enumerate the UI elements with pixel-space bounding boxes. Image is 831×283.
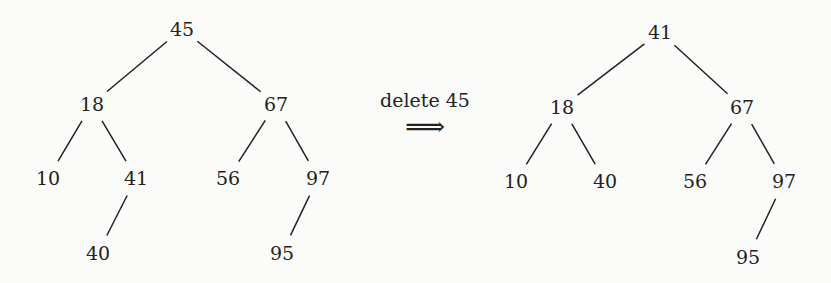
tree-node-56: 56: [683, 172, 707, 191]
edge-67-56: [706, 124, 732, 165]
operation-label: delete 45: [380, 89, 470, 111]
edge-18-10: [58, 121, 82, 161]
edge-67-97: [286, 121, 309, 161]
edge-97-95: [290, 196, 309, 236]
tree-node-56: 56: [216, 169, 240, 188]
edge-45-67: [197, 41, 260, 92]
tree-node-18: 18: [550, 98, 574, 117]
tree-node-41: 41: [648, 23, 672, 42]
tree-node-95: 95: [736, 248, 760, 267]
after-tree-edges: [526, 44, 775, 239]
tree-node-67: 67: [264, 95, 288, 114]
tree-node-40: 40: [593, 172, 617, 191]
tree-node-10: 10: [36, 169, 60, 188]
tree-node-97: 97: [306, 169, 330, 188]
tree-node-18: 18: [80, 95, 104, 114]
tree-node-97: 97: [772, 172, 796, 191]
edge-18-10: [526, 124, 551, 165]
tree-node-10: 10: [504, 172, 528, 191]
edge-18-41: [102, 121, 126, 161]
edge-67-97: [752, 124, 775, 164]
edge-41-40: [107, 195, 127, 235]
tree-node-67: 67: [730, 98, 754, 117]
tree-node-45: 45: [170, 20, 194, 39]
edge-18-40: [572, 124, 595, 164]
edge-41-67: [674, 45, 727, 94]
tree-node-41: 41: [124, 169, 148, 188]
edge-41-18: [578, 44, 645, 95]
tree-node-95: 95: [270, 244, 294, 263]
edge-67-56: [239, 120, 266, 161]
before-tree-edges: [58, 41, 310, 235]
tree-node-40: 40: [86, 244, 110, 263]
edge-45-18: [107, 42, 167, 92]
edge-97-95: [756, 199, 775, 240]
implies-arrow-icon: ⟹: [405, 113, 445, 141]
